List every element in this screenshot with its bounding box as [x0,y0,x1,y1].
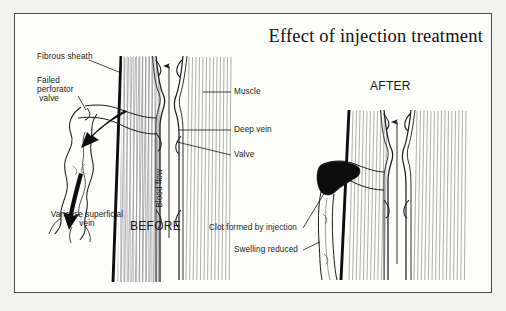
superficial-vein-after-left [318,192,322,280]
label-failed-perforator-valve: Failed perforator valve [37,76,74,104]
figure-canvas: Effect of injection treatment Fibrous sh… [0,0,506,311]
label-varicose-superficial-vein: Varicose superficial vein [27,210,147,228]
after-vein-valve-tick-1 [323,214,327,224]
label-blood-flow: Blood flow [155,169,164,208]
label-after: AFTER [370,80,411,93]
muscle-strokes-before-right [186,57,231,280]
clot-shape [317,162,360,195]
leader-clot [303,192,325,228]
valve-cusp-before-right-2 [176,136,181,154]
after-panel-art [303,110,466,280]
muscle-strokes-after-right [414,111,466,280]
varicose-branch-2 [70,227,72,243]
deep-vein-wall-before-right-inner [179,56,187,280]
label-swelling-reduced: Swelling reduced [234,245,298,254]
muscle-hatch-before-inner [325,119,416,280]
label-deep-vein: Deep vein [234,125,272,134]
label-before: BEFORE [130,220,181,233]
superficial-vein-after-mid [325,198,330,280]
label-clot-formed: Clot formed by injection [209,223,297,232]
superficial-vein-after-right [332,194,337,280]
varicose-branch-3 [85,226,90,242]
label-valve: Valve [234,150,254,159]
label-muscle: Muscle [234,87,261,96]
before-panel-art [49,56,416,282]
leader-swelling [303,242,320,250]
fibrous-sheath-line-after [341,110,349,280]
varicose-valve-tick-1 [73,166,77,175]
figure-frame: Effect of injection treatment Fibrous sh… [14,13,492,293]
figure-title: Effect of injection treatment [268,26,483,47]
leader-fibrous-sheath [89,60,119,72]
deep-vein-wall-after-right-inner [407,110,415,280]
deep-vein-wall-after-right-left [402,110,411,280]
label-fibrous-sheath: Fibrous sheath [37,52,93,61]
muscle-strokes-after-left [349,111,387,280]
